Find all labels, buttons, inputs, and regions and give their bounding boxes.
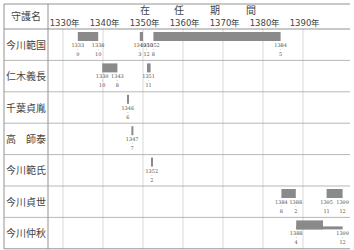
month-label: 12 — [339, 239, 345, 245]
tick-label: 1390年 — [290, 18, 321, 28]
tenure-bar — [140, 32, 143, 41]
month-label: 10 — [99, 82, 105, 88]
title-char: 在 — [140, 5, 150, 16]
tenure-bar — [102, 63, 117, 72]
month-label: 9 — [76, 51, 79, 57]
month-label: 4 — [295, 239, 298, 245]
tick-label: 1340年 — [90, 18, 121, 28]
month-label: 2 — [150, 177, 153, 183]
tick-label: 1380年 — [250, 18, 281, 28]
row-name: 千葉貞胤 — [6, 102, 46, 114]
title-char: 間 — [246, 5, 256, 16]
row-name: 今川貞世 — [6, 196, 46, 208]
tick-label: 1330年 — [50, 18, 81, 28]
tenure-bar — [153, 32, 280, 41]
tenure-bar — [281, 189, 295, 198]
tick-label: 1360年 — [170, 18, 201, 28]
month-label: 5 — [279, 51, 282, 57]
tenure-bar — [131, 126, 133, 135]
month-label: 10 — [95, 51, 101, 57]
title-char: 期 — [210, 5, 220, 16]
tick-label: 1350年 — [130, 18, 161, 28]
month-label: 12 — [339, 208, 345, 214]
month-label: 8 — [116, 82, 119, 88]
tenure-bar — [296, 226, 342, 229]
tenure-bar — [327, 189, 343, 198]
month-label: 8 — [152, 51, 155, 57]
title-char: 任 — [174, 4, 184, 16]
tick-label: 1370年 — [210, 18, 241, 28]
tenure-bar — [127, 95, 129, 104]
month-label: 11 — [145, 82, 151, 88]
row-name: 仁木義長 — [6, 70, 46, 82]
name-header: 守護名 — [11, 10, 41, 22]
month-label: 3 — [138, 51, 141, 57]
month-label: 8 — [280, 208, 283, 214]
month-label: 11 — [323, 208, 329, 214]
tenure-chart: 守護名在任期間1330年1340年1350年1360年1370年1380年139… — [0, 0, 354, 250]
month-label: 2 — [294, 208, 297, 214]
row-name: 今川仲秋 — [6, 227, 46, 239]
tenure-bar — [151, 158, 153, 167]
month-label: 7 — [131, 145, 134, 151]
tenure-bar — [78, 32, 98, 41]
month-label: 6 — [126, 114, 129, 120]
row-name: 今川範氏 — [6, 164, 46, 176]
row-name: 今川範国 — [6, 39, 46, 51]
month-label: 12 — [143, 51, 149, 57]
row-name: 高 師泰 — [6, 133, 46, 145]
tenure-bar — [147, 63, 151, 72]
